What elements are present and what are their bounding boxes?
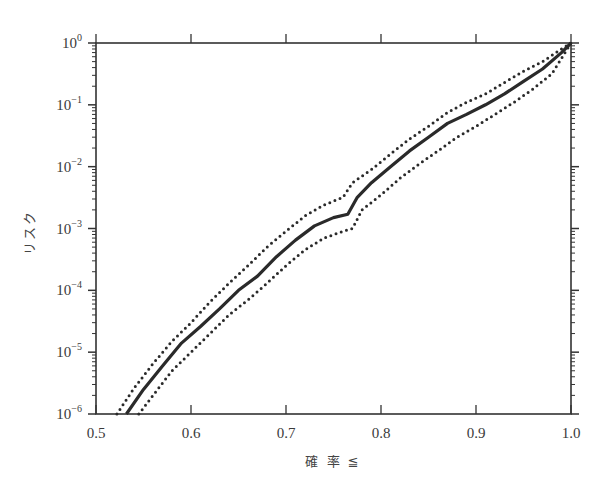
y-axis-title: リスク: [22, 210, 37, 255]
median-line: [126, 43, 571, 414]
y-tick-label: 100: [62, 32, 82, 51]
y-tick-label: 10−6: [56, 403, 82, 422]
x-tick-label: 0.8: [372, 425, 391, 441]
y-tick-label: 10−3: [56, 218, 82, 237]
x-tick-label: 0.7: [277, 425, 296, 441]
lower-bound-line: [139, 43, 571, 414]
y-axis-ticks: 10010−110−210−310−410−510−6: [56, 32, 579, 422]
y-tick-label: 10−1: [56, 94, 82, 113]
x-axis-ticks: 0.50.60.70.80.91.0: [87, 34, 581, 441]
x-tick-label: 0.9: [467, 425, 486, 441]
series-layer: [117, 43, 571, 414]
y-tick-label: 10−2: [56, 156, 82, 175]
x-tick-label: 0.5: [87, 425, 106, 441]
x-tick-label: 1.0: [562, 425, 581, 441]
y-tick-label: 10−4: [56, 279, 82, 298]
x-axis-title: 確 率 ≦: [305, 454, 360, 469]
x-tick-label: 0.6: [182, 425, 201, 441]
y-tick-label: 10−5: [56, 341, 82, 360]
risk-probability-chart: 0.50.60.70.80.91.0 10010−110−210−310−410…: [0, 0, 607, 483]
